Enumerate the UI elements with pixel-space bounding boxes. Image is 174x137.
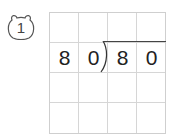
divisor-tens: 8 — [50, 43, 79, 73]
problem-badge: 1 — [5, 14, 37, 40]
grid-line — [78, 13, 79, 133]
grid-line — [107, 13, 108, 133]
division-bar — [104, 41, 166, 42]
dividend-tens: 8 — [108, 43, 137, 73]
grid-line — [50, 102, 165, 103]
dividend-ones: 0 — [137, 43, 166, 73]
division-grid: 8 0 8 0 — [49, 12, 166, 134]
grid-line — [136, 13, 137, 133]
division-bracket — [98, 41, 108, 73]
problem-number: 1 — [5, 20, 37, 36]
